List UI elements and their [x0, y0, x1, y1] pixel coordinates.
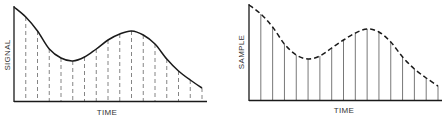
right-y-label: SAMPLE — [237, 35, 246, 69]
left-chart-signal: SIGNAL TIME — [3, 6, 207, 117]
right-solid-sample-lines — [261, 14, 438, 100]
right-x-label: TIME — [334, 106, 354, 115]
left-y-label: SIGNAL — [3, 39, 12, 70]
left-x-label: TIME — [97, 108, 117, 117]
left-dashed-sample-lines — [26, 17, 202, 101]
right-chart-sample: SAMPLE TIME — [237, 4, 442, 115]
diagram-canvas: SIGNAL TIME SAMPLE TIME — [0, 0, 442, 117]
